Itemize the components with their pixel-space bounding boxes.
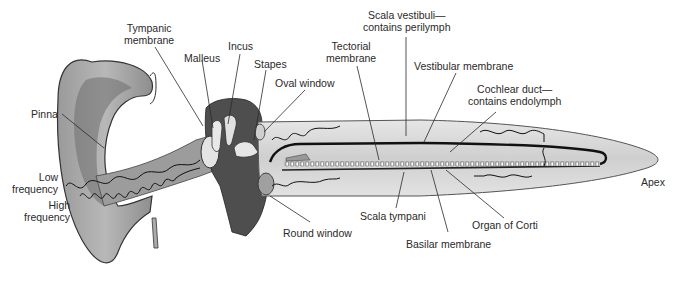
label-line: Scala vestibuli— [363,9,451,21]
ear-cochlea-diagram: Tympanic membrane Malleus Incus Stapes O… [0,0,681,288]
label-line: frequency [12,183,58,195]
label-organ-of-corti: Organ of Corti [472,219,538,231]
label-oval-window: Oval window [275,77,335,89]
label-pinna: Pinna [31,108,58,120]
label-scala-tympani: Scala tympani [360,210,426,222]
label-basilar-membrane: Basilar membrane [406,238,491,250]
label-line: membrane [124,34,174,46]
pinna-shape [58,60,158,263]
ear-canal [96,136,216,206]
label-incus: Incus [228,40,253,52]
label-line: Cochlear duct— [468,83,561,95]
label-line: Low [12,171,58,183]
label-round-window: Round window [283,227,352,239]
hair-cells [286,162,599,166]
label-line: membrane [326,52,376,64]
cochlea-outer [258,120,658,196]
label-low-frequency: Low frequency [12,171,58,195]
label-line: High [24,199,70,211]
label-apex: Apex [641,176,665,188]
round-window-shape [258,173,274,195]
label-vestibular-membrane: Vestibular membrane [414,60,513,72]
label-tectorial-membrane: Tectorial membrane [326,40,376,64]
label-line: Tympanic [124,22,174,34]
label-tympanic-membrane: Tympanic membrane [124,22,174,46]
label-line: contains perilymph [363,21,451,33]
label-high-frequency: High frequency [24,199,70,223]
label-cochlear-duct: Cochlear duct— contains endolymph [468,83,561,107]
label-line: frequency [24,211,70,223]
label-line: Tectorial [326,40,376,52]
label-stapes: Stapes [254,58,287,70]
label-malleus: Malleus [184,52,220,64]
label-line: contains endolymph [468,95,561,107]
label-scala-vestibuli: Scala vestibuli— contains perilymph [363,9,451,33]
